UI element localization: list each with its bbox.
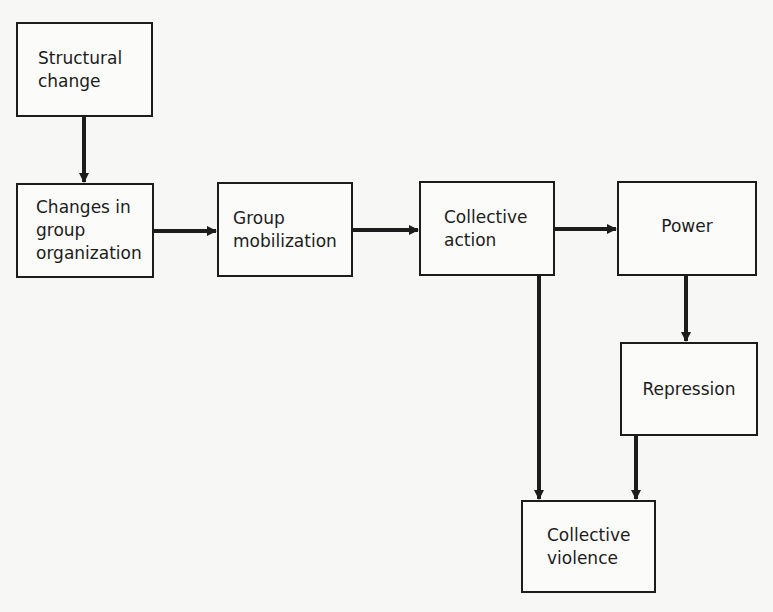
node-changes-in-group-organization: Changes in group organization <box>16 183 154 278</box>
node-structural-change: Structural change <box>16 22 153 117</box>
node-label: Power <box>661 215 712 238</box>
node-power: Power <box>617 181 757 276</box>
node-collective-action: Collective action <box>419 181 555 276</box>
node-label: Collective violence <box>547 524 630 570</box>
node-label: Collective action <box>444 206 527 252</box>
node-label: Repression <box>643 378 736 401</box>
node-collective-violence: Collective violence <box>521 500 656 593</box>
node-label: Structural change <box>38 47 122 93</box>
node-label: Group mobilization <box>233 207 337 253</box>
node-label: Changes in group organization <box>36 196 142 265</box>
node-repression: Repression <box>620 342 758 436</box>
node-group-mobilization: Group mobilization <box>217 182 353 277</box>
